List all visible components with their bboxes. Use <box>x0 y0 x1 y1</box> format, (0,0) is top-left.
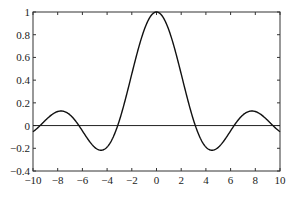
x-tick-label: 6 <box>228 174 234 186</box>
x-tick-label: −2 <box>126 174 138 186</box>
x-tick-label: −6 <box>77 174 89 186</box>
x-tick-label: 10 <box>275 174 287 186</box>
y-tick-label: −0.2 <box>10 142 30 154</box>
y-tick-label: 0.2 <box>16 97 30 109</box>
x-tick-label: −4 <box>101 174 113 186</box>
y-tick-label: 0.6 <box>16 51 30 63</box>
x-tick-label: −10 <box>24 174 42 186</box>
x-tick-label: 4 <box>203 174 209 186</box>
y-tick-label: 0 <box>25 120 31 132</box>
sinc-chart: −0.4−0.200.20.40.60.81 −10−8−6−4−2024681… <box>0 0 291 202</box>
y-tick-label: 1 <box>25 6 31 18</box>
x-tick-label: 8 <box>253 174 259 186</box>
x-tick-label: −8 <box>52 174 64 186</box>
x-tick-label: 2 <box>178 174 184 186</box>
plot-area <box>33 12 280 171</box>
y-tick-label: 0.4 <box>16 74 30 86</box>
x-tick-label: 0 <box>154 174 160 186</box>
y-tick-label: 0.8 <box>16 29 30 41</box>
